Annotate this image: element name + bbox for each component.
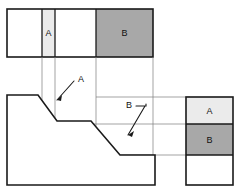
leader-label-b: B [126,100,132,110]
top-view-label-b: B [121,28,127,38]
side-view-segment-plain-bottom [186,155,233,185]
leader-label-a: A [78,74,84,84]
top-view-segment-plain-middle [55,9,96,57]
top-view-label-a: A [45,28,51,38]
side-view-label-a: A [206,106,212,116]
orthographic-projection-svg: A B A B [0,0,240,191]
side-view-label-b: B [206,135,212,145]
top-view-segment-plain-left [7,9,42,57]
top-view: A B [7,9,153,57]
side-view: A B [186,97,233,185]
technical-drawing-canvas: A B A B [0,0,240,191]
